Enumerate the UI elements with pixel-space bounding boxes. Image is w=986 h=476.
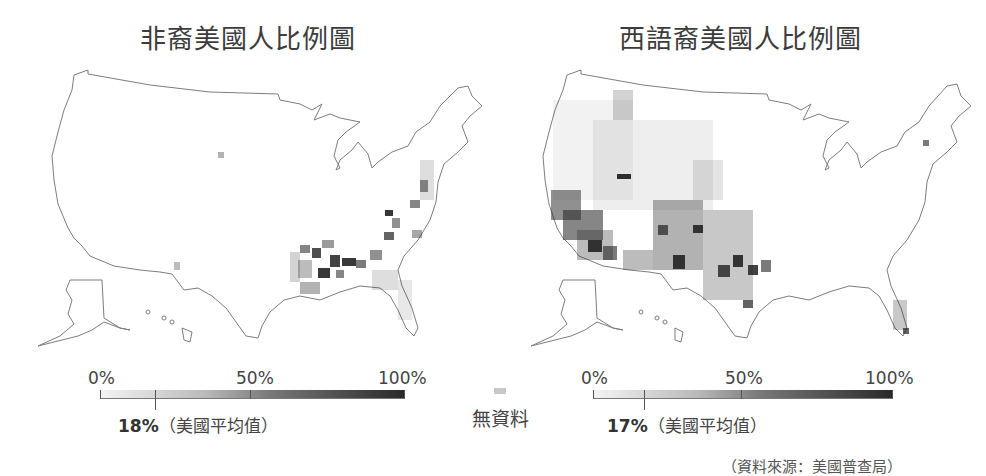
tick-mark: [741, 390, 742, 399]
legend-tick-100: 100%: [378, 368, 427, 388]
color-legend: 0% 50% 100% 18%（美國平均值）: [100, 368, 405, 448]
source-caption: （資料來源：美國普查局）: [722, 455, 902, 476]
legend-tick-0: 0%: [88, 368, 115, 388]
tick-mark: [892, 390, 893, 399]
map-title: 非裔美國人比例圖: [140, 18, 356, 55]
tick-mark: [593, 390, 594, 399]
map-title: 西語裔美國人比例圖: [619, 18, 862, 55]
us-map-hispanic: [493, 60, 986, 360]
no-data-legend: 無資料: [465, 388, 535, 431]
average-value: 18%: [118, 416, 159, 436]
us-map-african-american: [0, 60, 493, 360]
african-american-panel: 非裔美國人比例圖: [0, 0, 493, 469]
legend-tick-0: 0%: [581, 368, 608, 388]
hispanic-panel: 西語裔美國人比例圖: [493, 0, 986, 469]
tick-mark: [404, 390, 405, 399]
legend-tick-50: 50%: [725, 368, 763, 388]
tick-mark: [250, 390, 251, 399]
color-legend: 0% 50% 100% 17%（美國平均值）: [593, 368, 893, 448]
no-data-swatch: [494, 388, 506, 394]
average-label: （美國平均值）: [648, 416, 767, 436]
national-average: 18%（美國平均值）: [118, 412, 278, 437]
legend-tick-50: 50%: [236, 368, 274, 388]
average-value: 17%: [607, 416, 648, 436]
no-data-label: 無資料: [465, 404, 535, 431]
tick-mark: [100, 390, 101, 399]
legend-tick-100: 100%: [865, 368, 914, 388]
average-label: （美國平均值）: [159, 416, 278, 436]
average-marker: [644, 390, 645, 410]
color-scale-bar: [100, 390, 405, 399]
color-scale-bar: [593, 390, 893, 399]
average-marker: [155, 390, 156, 410]
national-average: 17%（美國平均值）: [607, 412, 767, 437]
